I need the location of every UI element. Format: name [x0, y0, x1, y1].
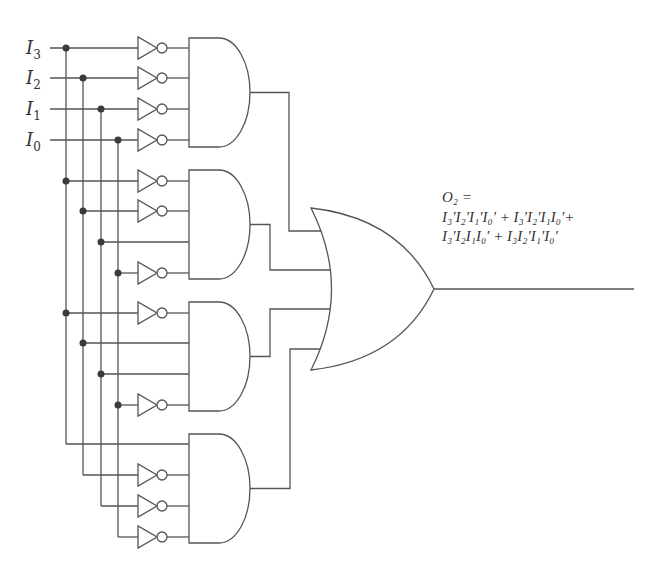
and-gate-3 [189, 302, 250, 411]
not-gate-bubble [157, 470, 167, 480]
junction-dots [63, 45, 122, 409]
not-gate-triangle [138, 394, 157, 416]
not-gate-triangle [138, 262, 157, 284]
input-subscript: 0 [33, 140, 41, 154]
junction-dot [80, 208, 87, 215]
not-gate-triangle [138, 170, 157, 192]
inverters [138, 37, 167, 548]
not-gate-triangle [138, 495, 157, 517]
input-label-I2: I2 [25, 67, 41, 92]
junction-dot [98, 106, 105, 113]
junction-dot [98, 239, 105, 246]
junction-dot [80, 75, 87, 82]
not-gate-triangle [138, 200, 157, 222]
junction-dot [63, 178, 70, 185]
not-gate-bubble [157, 135, 167, 145]
not-gate-bubble [157, 43, 167, 53]
not-gate-triangle [138, 67, 157, 89]
input-label-I3: I3 [25, 37, 41, 62]
junction-dot [115, 137, 122, 144]
junction-dot [80, 340, 87, 347]
not-gate-bubble [157, 268, 167, 278]
not-gate-triangle [138, 98, 157, 120]
not-gate-bubble [157, 73, 167, 83]
not-gate-triangle [138, 37, 157, 59]
and-gate-2 [189, 170, 250, 279]
input-labels: I3I2I1I0 [25, 37, 41, 154]
not-gate-triangle [138, 302, 157, 324]
junction-dot [115, 402, 122, 409]
not-gate-bubble [157, 532, 167, 542]
input-subscript: 1 [33, 109, 41, 123]
or-gate-body [311, 208, 434, 370]
not-gate-bubble [157, 206, 167, 216]
and-gates [189, 38, 250, 543]
not-gate-triangle [138, 129, 157, 151]
and-gate-1 [189, 38, 250, 147]
not-gate-triangle [138, 464, 157, 486]
junction-dot [63, 310, 70, 317]
input-subscript: 3 [33, 48, 41, 62]
and-gate-4 [189, 434, 250, 543]
not-gate-triangle [138, 526, 157, 548]
not-gate-bubble [157, 308, 167, 318]
or-gate [311, 208, 434, 370]
junction-dot [63, 45, 70, 52]
output-label: O₂ = [442, 190, 472, 204]
not-gate-bubble [157, 501, 167, 511]
input-label-I0: I0 [25, 129, 41, 154]
junction-dot [98, 371, 105, 378]
input-subscript: 2 [33, 78, 41, 92]
not-gate-bubble [157, 176, 167, 186]
not-gate-bubble [157, 104, 167, 114]
junction-dot [115, 270, 122, 277]
output-expression-line-2: I₃′I₂I₁I₀′ + I₃I₂′I₁′I₀′ [442, 229, 558, 243]
output-expression-line-1: I₃′I₂′I₁′I₀′ + I₃′I₂′I₁I₀′+ [442, 210, 574, 224]
input-label-I1: I1 [25, 98, 41, 123]
logic-circuit-diagram: I3I2I1I0 [0, 0, 671, 578]
not-gate-bubble [157, 400, 167, 410]
